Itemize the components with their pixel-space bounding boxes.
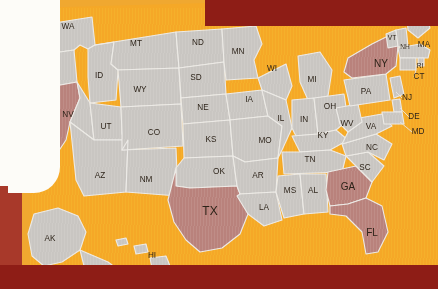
state-label-il: IL [278, 114, 285, 123]
state-shape-nd[interactable] [176, 29, 224, 68]
state-label-ar: AR [252, 171, 263, 180]
state-label-mn: MN [232, 47, 245, 56]
state-label-id: ID [95, 71, 103, 80]
state-label-tn: TN [305, 155, 316, 164]
state-label-mo: MO [258, 136, 271, 145]
state-label-al: AL [308, 186, 318, 195]
state-shape-sd[interactable] [179, 62, 226, 98]
state-label-sd: SD [190, 73, 201, 82]
state-shape-hi1[interactable] [116, 238, 128, 246]
state-label-az: AZ [95, 171, 105, 180]
state-shape-de[interactable] [392, 99, 402, 112]
state-label-co: CO [148, 128, 160, 137]
state-label-ms: MS [284, 186, 297, 195]
us-map-container[interactable]: WAORCANVIDMTWYUTCOAZNMNDSDNEKSOKTXMNIAMO… [0, 0, 438, 289]
state-label-oh: OH [324, 102, 336, 111]
state-label-ny: NY [374, 58, 388, 69]
state-shape-ok[interactable] [176, 156, 237, 188]
state-label-fl: FL [366, 227, 378, 238]
state-shape-ak[interactable] [28, 208, 86, 266]
state-shape-hi2[interactable] [134, 244, 148, 254]
state-label-de: DE [408, 112, 420, 121]
state-label-ri: RI [417, 62, 424, 69]
frame-bottom-band [0, 265, 438, 289]
state-label-wy: WY [133, 85, 147, 94]
state-label-sc: SC [359, 163, 370, 172]
state-label-tx: TX [202, 204, 217, 218]
state-label-mi: MI [307, 75, 316, 84]
state-label-nm: NM [140, 175, 153, 184]
state-label-wi: WI [267, 64, 277, 73]
map-screenshot: WAORCANVIDMTWYUTCOAZNMNDSDNEKSOKTXMNIAMO… [0, 0, 438, 289]
state-label-ne: NE [197, 103, 209, 112]
state-label-la: LA [259, 203, 270, 212]
state-label-ak: AK [45, 234, 56, 243]
state-label-ma: MA [418, 40, 431, 49]
state-label-wa: WA [62, 22, 75, 31]
state-label-nv: NV [62, 110, 74, 119]
state-shape-ct[interactable] [400, 58, 416, 70]
state-label-ct: CT [414, 72, 425, 81]
state-label-nc: NC [366, 143, 378, 152]
state-shape-wy[interactable] [118, 68, 181, 107]
state-label-ks: KS [206, 135, 217, 144]
state-shape-fl[interactable] [330, 198, 388, 254]
state-label-wv: WV [340, 119, 354, 128]
state-label-pa: PA [361, 87, 372, 96]
state-label-vt: VT [388, 34, 396, 41]
state-shape-mo[interactable] [230, 116, 282, 162]
frame-white-panel [8, 0, 60, 193]
state-label-ga: GA [341, 181, 356, 192]
state-shape-co[interactable] [121, 104, 183, 150]
state-label-nd: ND [192, 38, 204, 47]
state-label-ut: UT [101, 122, 112, 131]
us-map-svg[interactable]: WAORCANVIDMTWYUTCOAZNMNDSDNEKSOKTXMNIAMO… [0, 0, 438, 289]
state-label-nh: NH [400, 43, 410, 50]
state-label-va: VA [366, 122, 377, 131]
state-label-ia: IA [245, 95, 253, 104]
frame-top-band [205, 0, 438, 26]
state-label-in: IN [300, 115, 308, 124]
state-label-nj: NJ [402, 93, 412, 102]
state-label-md: MD [412, 127, 425, 136]
state-label-hi: HI [148, 251, 156, 260]
state-label-mt: MT [130, 39, 142, 48]
state-label-ky: KY [318, 131, 329, 140]
state-label-ok: OK [213, 167, 225, 176]
